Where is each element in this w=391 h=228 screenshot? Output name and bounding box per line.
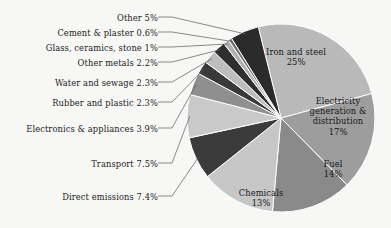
slice-label-electricity-line1: Electricity	[316, 96, 361, 106]
slice-label-electricity-generation: Electricity generation & distribution 17…	[296, 96, 380, 137]
slice-label-iron-and-steel-value: 25%	[287, 57, 306, 67]
pie-chart-figure: Other 5% Cement & plaster 0.6% Glass, ce…	[0, 0, 391, 228]
slice-label-electricity-line2: generation &	[310, 106, 367, 116]
slice-label-chemicals: Chemicals 13%	[223, 188, 299, 208]
slice-label-transport: Transport 7.5%	[91, 159, 158, 169]
slice-label-other-metals: Other metals 2.2%	[78, 58, 158, 68]
slice-label-fuel-value: 14%	[324, 169, 343, 179]
slice-label-rubber-and-plastic: Rubber and plastic 2.3%	[52, 98, 158, 108]
leader-line	[158, 44, 228, 47]
slice-label-iron-and-steel-name: Iron and steel	[266, 47, 326, 57]
slice-label-fuel-name: Fuel	[323, 159, 342, 169]
slice-label-iron-and-steel: Iron and steel 25%	[251, 47, 341, 67]
slice-label-cement-plaster: Cement & plaster 0.6%	[57, 28, 158, 38]
slice-label-chemicals-name: Chemicals	[239, 188, 284, 198]
slice-label-chemicals-value: 13%	[252, 198, 271, 208]
slice-label-direct-emissions: Direct emissions 7.4%	[62, 192, 158, 202]
slice-label-electricity-line3: distribution	[313, 116, 363, 126]
slice-label-other: Other 5%	[117, 13, 158, 23]
slice-label-glass-ceramics-stone: Glass, ceramics, stone 1%	[46, 43, 158, 53]
leader-line	[158, 17, 246, 34]
slice-label-electricity-value: 17%	[329, 127, 348, 137]
slice-label-water-and-sewage: Water and sewage 2.3%	[55, 78, 158, 88]
slice-label-fuel: Fuel 14%	[309, 159, 357, 179]
slice-label-electronics-appliances: Electronics & appliances 3.9%	[26, 124, 158, 134]
leader-line	[158, 32, 232, 41]
leader-line	[158, 116, 190, 163]
